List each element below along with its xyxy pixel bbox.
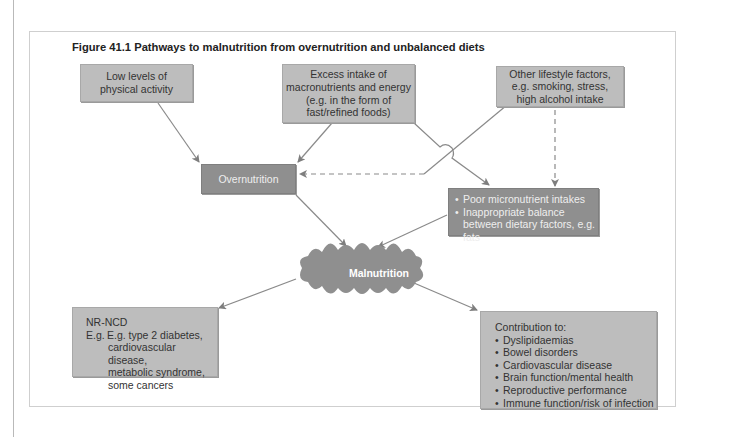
arrow-intake-overnutrition <box>298 123 332 162</box>
malnutrition-label: Malnutrition <box>334 267 424 279</box>
node-other-lifestyle: Other lifestyle factors, e.g. smoking, s… <box>496 66 624 107</box>
arrow-activity-overnutrition <box>158 103 199 162</box>
arrow-micronutrient-malnutrition <box>378 215 447 247</box>
node-micronutrient: Poor micronutrient intakes Inappropriate… <box>448 188 599 236</box>
node-low-activity: Low levels of physical activity <box>80 64 193 102</box>
node-overnutrition: Overnutrition <box>201 164 296 194</box>
arrow-lifestyle-overnutrition-solid <box>424 105 507 174</box>
arrow-malnutrition-contribution <box>414 283 477 310</box>
arrow-malnutrition-nrncd <box>219 279 296 308</box>
node-contribution: Contribution to: Dyslipidaemias Bowel di… <box>480 311 657 409</box>
node-excess-intake: Excess intake of macronutrients and ener… <box>282 64 415 123</box>
arrow-intake-micronutrient <box>414 123 489 185</box>
arrow-overnutrition-malnutrition <box>296 195 346 246</box>
contribution-list: Dyslipidaemias Bowel disorders Cardiovas… <box>495 334 656 410</box>
node-nrncd: NR-NCD E.g. E.g. type 2 diabetes, cardio… <box>72 307 218 377</box>
micronutrient-list: Poor micronutrient intakes Inappropriate… <box>455 193 598 243</box>
